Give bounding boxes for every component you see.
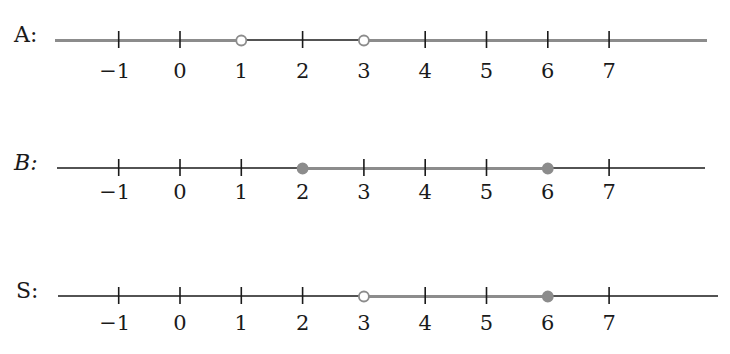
- row-label-s: S:: [16, 278, 38, 303]
- tick-label-a-2: 1: [235, 59, 248, 83]
- number-line-row-b: B: −101234567: [13, 150, 705, 204]
- tick-label-a-8: 7: [602, 59, 615, 83]
- open-endpoint-a-0: [236, 36, 246, 46]
- tick-label-s-1: 0: [173, 311, 186, 335]
- tick-label-s-5: 4: [419, 311, 432, 335]
- tick-label-s-0: −1: [99, 311, 130, 335]
- number-line-row-a: A: −101234567: [13, 22, 707, 83]
- tick-label-s-4: 3: [357, 311, 370, 335]
- row-label-a: A:: [13, 22, 37, 47]
- row-label-b: B:: [13, 150, 38, 175]
- tick-label-b-5: 4: [419, 180, 432, 204]
- closed-endpoint-b-0: [298, 164, 308, 174]
- tick-label-a-4: 3: [357, 59, 370, 83]
- open-endpoint-a-1: [359, 36, 369, 46]
- number-line-diagram: A: −101234567 B: −101234567 S: −10123456…: [0, 0, 730, 354]
- tick-label-a-7: 6: [541, 59, 554, 83]
- tick-label-b-7: 6: [541, 180, 554, 204]
- tick-label-b-1: 0: [173, 180, 186, 204]
- tick-label-b-6: 5: [480, 180, 493, 204]
- tick-label-a-0: −1: [99, 59, 130, 83]
- tick-label-a-6: 5: [480, 59, 493, 83]
- tick-label-s-8: 7: [602, 311, 615, 335]
- tick-label-s-3: 2: [296, 311, 309, 335]
- tick-label-b-3: 2: [296, 180, 309, 204]
- tick-label-a-5: 4: [419, 59, 432, 83]
- tick-label-s-6: 5: [480, 311, 493, 335]
- tick-label-a-3: 2: [296, 59, 309, 83]
- number-line-row-s: S: −101234567: [16, 278, 718, 335]
- tick-label-a-1: 0: [173, 59, 186, 83]
- tick-label-b-0: −1: [99, 180, 130, 204]
- closed-endpoint-b-1: [543, 164, 553, 174]
- tick-label-b-2: 1: [235, 180, 248, 204]
- tick-label-b-8: 7: [602, 180, 615, 204]
- tick-label-s-7: 6: [541, 311, 554, 335]
- tick-label-s-2: 1: [235, 311, 248, 335]
- open-endpoint-s-0: [359, 292, 369, 302]
- tick-label-b-4: 3: [357, 180, 370, 204]
- closed-endpoint-s-1: [543, 292, 553, 302]
